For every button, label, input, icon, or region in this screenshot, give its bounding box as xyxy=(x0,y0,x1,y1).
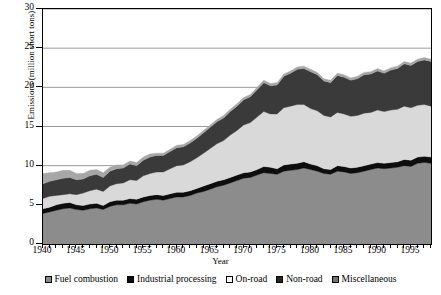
legend-label: Industrial processing xyxy=(137,274,216,284)
y-tick-label: 5 xyxy=(8,198,34,208)
legend-item-on-road[interactable]: On-road xyxy=(226,274,268,284)
x-tick-label: 1995 xyxy=(390,245,430,255)
legend-label: Non-road xyxy=(286,274,322,284)
legend-item-non-road[interactable]: Non-road xyxy=(276,274,322,284)
x-axis-title: Year xyxy=(0,256,441,266)
legend-swatch-icon xyxy=(226,276,233,283)
y-tick-label: 10 xyxy=(8,159,34,169)
y-tick-label: 25 xyxy=(8,41,34,51)
y-tick-label: 15 xyxy=(8,120,34,130)
y-tick-label: 30 xyxy=(8,2,34,12)
plot-area xyxy=(42,8,432,245)
legend-item-industrial-processing[interactable]: Industrial processing xyxy=(127,274,216,284)
chart-legend: Fuel combustionIndustrial processingOn-r… xyxy=(0,274,441,284)
y-tick-label: 20 xyxy=(8,80,34,90)
stacked-area-chart: Emissions (million short tons) Year 0510… xyxy=(0,0,441,295)
legend-swatch-icon xyxy=(332,276,339,283)
legend-swatch-icon xyxy=(276,276,283,283)
legend-label: On-road xyxy=(236,274,268,284)
legend-item-fuel-combustion[interactable]: Fuel combustion xyxy=(45,274,119,284)
legend-swatch-icon xyxy=(127,276,134,283)
plot-svg xyxy=(43,9,431,244)
legend-item-miscellaneous[interactable]: Miscellaneous xyxy=(332,274,397,284)
legend-swatch-icon xyxy=(45,276,52,283)
legend-label: Fuel combustion xyxy=(55,274,119,284)
legend-label: Miscellaneous xyxy=(342,274,397,284)
